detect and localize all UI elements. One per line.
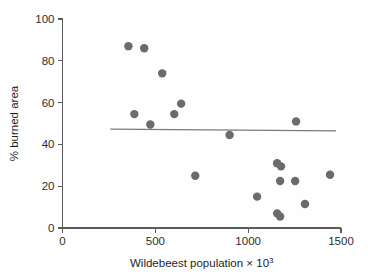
y-tick-label: 40 bbox=[42, 138, 55, 150]
data-point bbox=[291, 177, 299, 185]
y-tick-label: 20 bbox=[42, 180, 55, 192]
data-point bbox=[140, 44, 148, 52]
data-point bbox=[177, 99, 185, 107]
x-tick-label: 1000 bbox=[235, 235, 261, 247]
data-point bbox=[277, 162, 285, 170]
x-tick-label: 500 bbox=[146, 235, 165, 247]
x-tick-label: 0 bbox=[59, 235, 65, 247]
data-point bbox=[130, 110, 138, 118]
data-point bbox=[292, 117, 300, 125]
x-axis-title: Wildebeest population × 103 bbox=[130, 256, 274, 269]
y-tick-label: 80 bbox=[42, 55, 55, 67]
scatter-plot-figure: 020406080100050010001500% burned areaWil… bbox=[0, 0, 368, 278]
data-point bbox=[146, 120, 154, 128]
data-point bbox=[253, 192, 261, 200]
data-point bbox=[191, 172, 199, 180]
data-point bbox=[225, 131, 233, 139]
plot-canvas: 020406080100050010001500% burned areaWil… bbox=[0, 0, 368, 278]
y-tick-label: 60 bbox=[42, 97, 55, 109]
y-axis-title: % burned area bbox=[8, 85, 20, 161]
regression-line bbox=[110, 129, 336, 131]
data-point bbox=[124, 42, 132, 50]
data-point bbox=[326, 171, 334, 179]
y-tick-label: 0 bbox=[48, 222, 54, 234]
data-point bbox=[170, 110, 178, 118]
data-point bbox=[158, 69, 166, 77]
data-point bbox=[276, 212, 284, 220]
x-tick-label: 1500 bbox=[328, 235, 354, 247]
data-point bbox=[276, 177, 284, 185]
y-tick-label: 100 bbox=[35, 13, 54, 25]
data-point bbox=[301, 200, 309, 208]
